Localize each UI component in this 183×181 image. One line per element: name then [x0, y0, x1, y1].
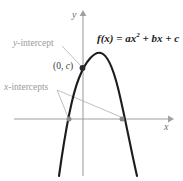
x-intercepts-callout-rest: -intercepts	[8, 82, 48, 92]
equation-a-term: ax	[125, 32, 136, 44]
y-intercept-callout-rest: -intercept	[17, 38, 53, 48]
y-intercept-point-label: (0, c)	[53, 62, 73, 72]
x-intercept-right-point	[120, 117, 125, 122]
x-axis-label: x	[164, 122, 168, 132]
equation-equals: =	[114, 32, 126, 44]
point-label-close: )	[70, 61, 73, 71]
x-intercepts-callout-label: x-intercepts	[4, 83, 48, 93]
equation-c-term: + c	[163, 32, 180, 44]
y-intercept-callout-label: y-intercept	[13, 39, 54, 49]
equation-fx: f(x)	[97, 32, 114, 44]
y-intercept-point	[80, 65, 86, 71]
function-equation-label: f(x) = ax2 + bx + c	[97, 33, 179, 44]
point-label-open: (0,	[53, 61, 66, 71]
x-intercept-left-point	[67, 117, 72, 122]
equation-b-term: + bx	[140, 32, 163, 44]
y-axis-label: y	[72, 10, 76, 20]
